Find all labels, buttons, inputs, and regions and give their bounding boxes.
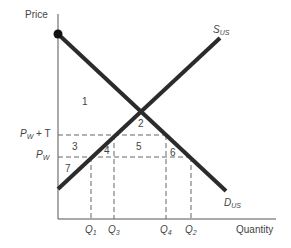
demand-intercept-dot bbox=[54, 30, 63, 39]
supply-label: SUS bbox=[213, 25, 229, 36]
pw-plus-t-label: PW + T bbox=[20, 129, 51, 140]
q2-label: Q2 bbox=[185, 225, 197, 236]
area-3: 3 bbox=[72, 142, 78, 152]
q1-label: Q1 bbox=[85, 225, 97, 236]
supply-curve bbox=[58, 38, 220, 189]
demand-label: DUS bbox=[224, 198, 241, 209]
area-1: 1 bbox=[82, 97, 88, 107]
area-2: 2 bbox=[138, 119, 144, 129]
area-6: 6 bbox=[170, 148, 176, 158]
q4-label: Q4 bbox=[160, 225, 172, 236]
area-7: 7 bbox=[65, 164, 71, 174]
pw-label: PW bbox=[36, 150, 49, 161]
y-axis-label: Price bbox=[25, 10, 48, 20]
x-axis-label: Quantity bbox=[236, 225, 273, 235]
area-4: 4 bbox=[104, 146, 110, 156]
q3-label: Q3 bbox=[108, 225, 120, 236]
area-5: 5 bbox=[136, 142, 142, 152]
tariff-diagram bbox=[0, 0, 291, 248]
